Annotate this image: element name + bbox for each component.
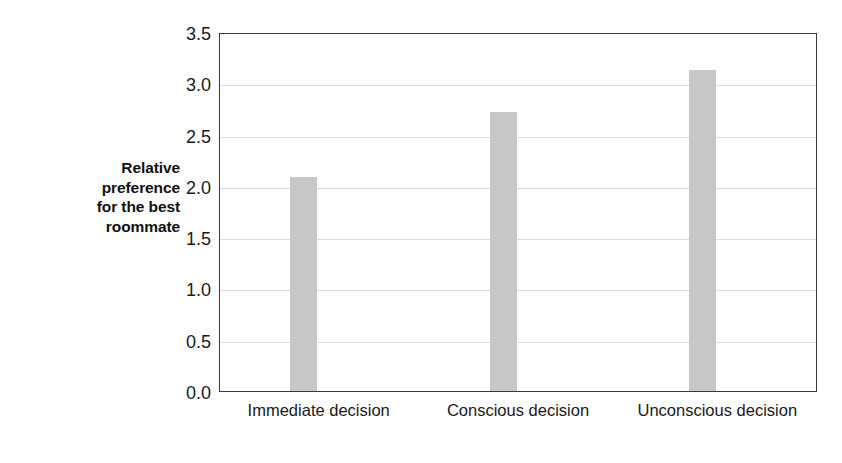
- y-axis-title-line-2: preference: [44, 178, 180, 198]
- y-axis-tick-label: 1.0: [186, 280, 211, 301]
- y-axis-title: Relative preference for the best roommat…: [44, 158, 180, 236]
- y-axis-tick-label: 0.5: [186, 331, 211, 352]
- y-axis-title-line-3: for the best: [44, 197, 180, 217]
- bar: [290, 177, 317, 391]
- x-axis-tick-label: Unconscious decision: [638, 401, 798, 420]
- bar: [689, 70, 716, 391]
- x-axis-tick-label: Immediate decision: [248, 401, 390, 420]
- chart-figure: Relative preference for the best roommat…: [0, 0, 842, 463]
- x-axis-tick-label: Conscious decision: [447, 401, 589, 420]
- y-axis-tick-label: 0.0: [186, 383, 211, 404]
- y-axis-tick-label: 2.5: [186, 126, 211, 147]
- y-axis-tick-label: 3.5: [186, 24, 211, 45]
- y-axis-title-line-1: Relative: [44, 158, 180, 178]
- y-axis-title-line-4: roommate: [44, 217, 180, 237]
- plot-area: 0.00.51.01.52.02.53.03.5: [219, 33, 817, 392]
- y-axis-tick-label: 2.0: [186, 177, 211, 198]
- y-axis-tick-label: 3.0: [186, 75, 211, 96]
- bars: [220, 34, 816, 391]
- y-axis-tick-label: 1.5: [186, 229, 211, 250]
- bar: [490, 112, 517, 391]
